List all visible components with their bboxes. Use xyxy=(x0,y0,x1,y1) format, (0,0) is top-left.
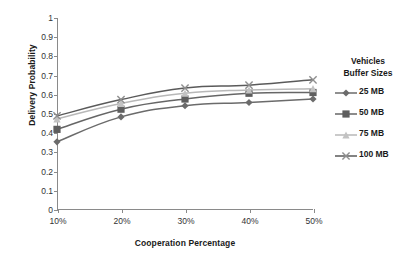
x-axis-tick-label: 30% xyxy=(177,216,194,226)
legend-item-25-mb[interactable]: 25 MB xyxy=(334,81,409,100)
legend-item-75-mb[interactable]: 75 MB xyxy=(334,123,409,142)
legend-title: Vehicles Buffer Sizes xyxy=(334,55,402,79)
legend-items: 25 MB50 MB75 MB100 MB xyxy=(334,81,409,163)
y-axis-tick-mark xyxy=(54,37,58,38)
chart-legend: Vehicles Buffer Sizes 25 MB50 MB75 MB100… xyxy=(334,55,409,163)
y-axis-tick-label: 0.8 xyxy=(41,51,53,61)
x-axis-tick-label: 40% xyxy=(241,216,258,226)
series-25-mb xyxy=(53,95,316,145)
plot-area: 00.10.20.30.40.50.60.70.80.9110%20%30%40… xyxy=(57,18,313,210)
y-axis-tick-label: 0.2 xyxy=(41,167,53,177)
legend-item-50-mb[interactable]: 50 MB xyxy=(334,102,409,121)
y-axis-tick-label: 0 xyxy=(48,205,53,215)
y-axis-title: Delivery Probability xyxy=(27,5,37,165)
data-point-marker-diamond xyxy=(53,138,60,145)
x-axis-title: Cooperation Percentage xyxy=(57,238,313,248)
x-axis-tick-mark xyxy=(58,209,59,213)
y-axis-tick-label: 1 xyxy=(48,13,53,23)
y-axis-tick-mark xyxy=(54,56,58,57)
data-point-marker-diamond xyxy=(181,102,188,109)
x-axis-tick-mark xyxy=(250,209,251,213)
legend-title-line2: Buffer Sizes xyxy=(334,67,402,79)
x-axis-tick-label: 10% xyxy=(49,216,66,226)
chart-canvas xyxy=(57,18,314,210)
data-point-marker-square xyxy=(342,110,349,117)
y-axis-tick-label: 0.7 xyxy=(41,71,53,81)
legend-swatch-square-icon xyxy=(334,106,358,118)
x-axis-tick-label: 50% xyxy=(305,216,322,226)
legend-swatch-triangle-icon xyxy=(334,127,358,139)
y-axis-tick-label: 0.3 xyxy=(41,147,53,157)
data-point-marker-diamond xyxy=(245,99,252,106)
y-axis-tick-mark xyxy=(54,191,58,192)
y-axis-tick-mark xyxy=(54,95,58,96)
y-axis-tick-mark xyxy=(54,76,58,77)
legend-title-line1: Vehicles xyxy=(334,55,402,67)
y-axis-tick-label: 0.5 xyxy=(41,109,53,119)
legend-swatch-x-icon xyxy=(334,148,358,160)
y-axis-tick-label: 0.1 xyxy=(41,186,53,196)
x-axis-tick-mark xyxy=(314,209,315,213)
y-axis-tick-mark xyxy=(54,152,58,153)
y-axis-tick-mark xyxy=(54,114,58,115)
legend-swatch-diamond-icon xyxy=(334,85,358,97)
y-axis-tick-mark xyxy=(54,172,58,173)
y-axis-tick-label: 0.9 xyxy=(41,32,53,42)
y-axis-tick-label: 0.6 xyxy=(41,90,53,100)
x-axis-tick-mark xyxy=(122,209,123,213)
legend-label: 100 MB xyxy=(359,149,389,159)
y-axis-tick-mark xyxy=(54,18,58,19)
legend-label: 75 MB xyxy=(359,128,384,138)
y-axis-tick-label: 0.4 xyxy=(41,128,53,138)
y-axis-tick-mark xyxy=(54,133,58,134)
data-point-marker-diamond xyxy=(309,95,316,102)
x-axis-tick-label: 20% xyxy=(113,216,130,226)
data-point-marker-diamond xyxy=(117,113,124,120)
data-point-marker-square xyxy=(53,126,60,133)
x-axis-tick-mark xyxy=(186,209,187,213)
data-point-marker-diamond xyxy=(342,89,349,96)
chart-figure: Delivery Probability 00.10.20.30.40.50.6… xyxy=(0,0,409,262)
legend-item-100-mb[interactable]: 100 MB xyxy=(334,144,409,163)
legend-label: 25 MB xyxy=(359,86,384,96)
legend-label: 50 MB xyxy=(359,107,384,117)
